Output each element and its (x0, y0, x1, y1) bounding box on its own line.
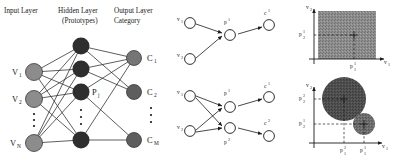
space-single-y-tick-sup: 1 (303, 29, 305, 34)
output-node-2-label: C (147, 88, 153, 97)
hidden-layer-header: Hidden Layer (58, 7, 98, 15)
graph-double-input-2-sub: 2 (181, 127, 183, 132)
space-double-x-tick-1-sub: 1 (364, 151, 366, 156)
space-double-x-tick-1-sup: 1 (364, 145, 366, 150)
output-node-1-sub: 1 (154, 58, 157, 64)
graph-single-input-node-1[interactable] (185, 18, 196, 29)
space-single-x-axis-label: v (384, 59, 387, 65)
graph-double-input-node-1[interactable] (185, 91, 196, 102)
space-double-x-axis-label: v (382, 143, 385, 149)
input-node-n-label: V (10, 139, 16, 148)
space-double-x-axis-sub: 1 (386, 146, 388, 151)
space-single-y-tick-sub: 2 (303, 35, 305, 40)
hidden-node-1[interactable] (73, 38, 90, 55)
graph-double-output-2-sup: 2 (268, 118, 270, 123)
rbf-network-panel: Input Layer Hidden Layer (Prototypes) Ou… (0, 0, 170, 161)
output-layer-ellipsis (150, 107, 152, 123)
graph-double-prototype-1-sup: 1 (228, 88, 230, 93)
graph-double-prototype-1-label: p (224, 90, 227, 96)
graph-double-prototype-2-sup: 2 (228, 137, 230, 142)
graph-single-output-sup: 1 (268, 8, 270, 13)
graph-double-output-1-sup: 1 (268, 81, 270, 86)
input-layer-nodes: V 1 V 2 V N (10, 64, 43, 152)
graph-single-edges (196, 24, 262, 58)
output-node-m-sub: M (154, 140, 159, 146)
space-double-y-axis-label: v (306, 82, 309, 88)
hidden-node-j-sub: j (97, 92, 100, 98)
graph-single-input-node-2[interactable] (185, 54, 196, 65)
graph-single-prototype-node[interactable] (225, 30, 236, 41)
output-node-m[interactable] (127, 133, 142, 148)
graph-single-output-node[interactable] (264, 20, 275, 31)
output-node-2[interactable] (127, 85, 142, 100)
network-headers: Input Layer Hidden Layer (Prototypes) Ou… (4, 7, 153, 25)
prototype-graph-double-panel: v 1 v 2 p 1 p 2 c 1 c 2 (172, 82, 290, 152)
space-double-y-axis-sub: 2 (310, 85, 312, 90)
space-double-y-tick-2-sub: 2 (303, 99, 305, 104)
hidden-node-j[interactable] (73, 84, 90, 101)
input-node-1[interactable] (26, 64, 43, 81)
graph-double-prototype-node-1[interactable] (225, 102, 236, 113)
space-double-y-tick-1-sup: 1 (303, 118, 305, 123)
input-node-2-label: V (12, 95, 18, 104)
feature-space-double-panel: v 2 v 1 p 2 2 p 1 2 p 2 1 p 1 1 (292, 72, 394, 161)
graph-double-input-2-label: v (177, 124, 180, 130)
space-single-y-axis-label: v (306, 4, 309, 10)
graph-double-prototype-node-2[interactable] (225, 123, 236, 134)
input-node-2-sub: 2 (19, 99, 22, 105)
graph-double-input-1-label: v (177, 89, 180, 95)
graph-double-output-1-label: c (264, 83, 267, 89)
output-node-m-label: C (147, 136, 153, 145)
graph-double-prototype-2-label: p (224, 139, 227, 145)
input-node-1-sub: 1 (19, 72, 22, 78)
graph-double-output-node-2[interactable] (264, 131, 275, 142)
input-node-2[interactable] (26, 91, 43, 108)
output-node-1-label: C (147, 54, 153, 63)
input-node-n[interactable] (26, 135, 43, 152)
hidden-layer-ellipsis (80, 109, 82, 125)
output-layer-header: Output Layer (114, 7, 153, 15)
space-double-x-tick-1-label: p (360, 147, 363, 153)
graph-double-output-2-label: c (264, 120, 267, 126)
space-double-y-tick-2-sup: 2 (303, 93, 305, 98)
graph-double-input-node-2[interactable] (185, 126, 196, 137)
input-node-1-label: V (12, 68, 18, 77)
output-layer-subheader: Category (114, 17, 141, 25)
space-single-x-axis-sub: 1 (388, 62, 390, 67)
graph-double-input-1-sub: 1 (181, 92, 183, 97)
graph-single-input-1-label: v (177, 16, 180, 22)
space-double-y-tick-1-sub: 2 (303, 124, 305, 129)
figure-root: Input Layer Hidden Layer (Prototypes) Ou… (0, 0, 394, 161)
space-single-y-tick-label: p (299, 31, 302, 37)
output-node-1[interactable] (127, 51, 142, 66)
graph-single-input-2-label: v (177, 52, 180, 58)
space-double-y-tick-2-label: p (299, 95, 302, 101)
prototype-graph-single-panel: v 1 v 2 p 1 c 1 (172, 8, 290, 70)
hidden-layer-subheader: (Prototypes) (62, 17, 98, 25)
graph-single-input-1-sub: 1 (181, 19, 183, 24)
graph-single-input-2-sub: 2 (181, 55, 183, 60)
graph-single-output-label: c (264, 10, 267, 16)
feature-space-single-panel: v 2 v 1 p 1 2 p 1 1 (292, 2, 394, 72)
graph-double-output-node-1[interactable] (264, 92, 275, 103)
input-layer-ellipsis (33, 113, 35, 127)
input-layer-header: Input Layer (4, 7, 38, 15)
graph-single-prototype-sup: 1 (228, 17, 230, 22)
hidden-node-j-label: P (92, 88, 97, 97)
space-double-x-tick-2-sup: 2 (344, 145, 346, 150)
space-single-x-tick-label: p (350, 63, 353, 69)
output-layer-nodes: C 1 C 2 C M (127, 51, 160, 148)
input-node-n-sub: N (17, 143, 21, 149)
space-single-x-tick-sup: 1 (354, 61, 356, 66)
graph-single-prototype-label: p (224, 19, 227, 25)
space-double-x-tick-2-label: p (340, 147, 343, 153)
space-double-y-tick-1-label: p (299, 120, 302, 126)
hidden-node-2[interactable] (73, 61, 90, 78)
space-double-x-tick-2-sub: 1 (344, 151, 346, 156)
hidden-node-last[interactable] (73, 132, 90, 149)
output-node-2-sub: 2 (154, 92, 157, 98)
space-single-y-axis-sub: 2 (310, 7, 312, 12)
